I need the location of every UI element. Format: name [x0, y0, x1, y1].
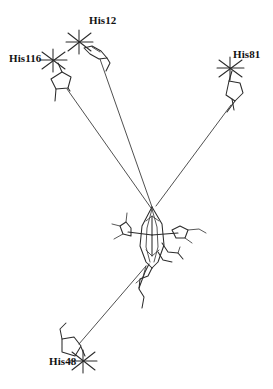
coordination-line-his116	[67, 89, 151, 208]
molecular-structure-figure: His12 His116 His81 His48	[0, 0, 273, 389]
porphyrin-pyrrole-left	[120, 222, 131, 236]
porphyrin-tail-segment-1	[139, 268, 152, 308]
residue-his81	[217, 57, 244, 112]
metal-center-bond-left	[128, 232, 152, 235]
label-his116: His116	[9, 53, 41, 64]
porphyrin-pyrrole-left-substituent-2	[114, 234, 123, 239]
residue-his12	[66, 30, 110, 71]
coordination-line-his12	[100, 59, 152, 207]
coordination-line-his48	[79, 266, 146, 344]
his48-substituent-1	[60, 323, 66, 339]
his116-imidazole-ring	[51, 72, 71, 89]
porphyrin-pyrrole-left-substituent-1	[112, 224, 120, 226]
his81-imidazole-ring	[226, 81, 243, 101]
label-his81: His81	[233, 49, 260, 60]
porphyrin-methyl-stub-1	[178, 247, 180, 253]
porphyrin-pyrrole-right-substituent-1	[188, 229, 206, 233]
porphyrin-pyrrole-right-substituent-2	[185, 238, 192, 243]
porphyrin-propionate-1	[162, 243, 183, 259]
his48-imidazole-ring	[62, 337, 81, 356]
label-his12: His12	[89, 15, 116, 26]
residue-his116	[40, 49, 71, 101]
porphyrin-pyrrole-left-substituent-3	[126, 213, 127, 222]
his116-cb-bond	[58, 63, 62, 72]
porphyrin-macrocycle	[112, 207, 206, 308]
label-his48: His48	[49, 356, 76, 367]
his12-side-chain-stub	[106, 58, 110, 71]
his116-substituent-1	[55, 89, 56, 101]
coordination-lines	[67, 59, 231, 344]
coordination-line-his81	[156, 105, 231, 206]
porphyrin-pyrrole-right	[172, 226, 188, 238]
